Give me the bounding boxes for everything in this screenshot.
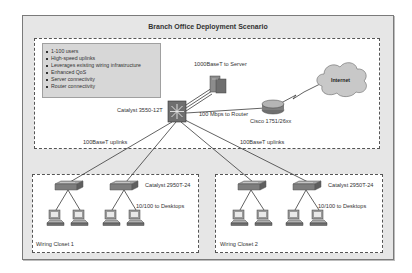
access-switch-icon [110,181,138,190]
network-drawing [0,0,412,273]
closet-2-label: Wiring Closet 2 [220,241,258,247]
desktop-pc-icon [127,210,144,226]
desktop-pc-icon [286,210,303,226]
desktop-pc-icon [103,210,120,226]
closet-1-switch-label: Catalyst 2950T-24 [145,182,190,188]
desktop-pc-icon [310,210,327,226]
router-label: Cisco 1751/26xx [250,118,291,124]
router-icon [262,100,284,114]
desktop-pc-icon [71,210,88,226]
core-switch-icon [168,101,186,122]
closet-1-desktop-link-label: 10/100 to Desktops [136,203,184,209]
access-switch-icon [293,181,321,190]
closet-2-switch-label: Catalyst 2950T-24 [328,182,373,188]
closet-1-label: Wiring Closet 1 [36,241,74,247]
access-switch-icon [238,181,266,190]
closet-2-desktop-link-label: 10/100 to Desktops [318,203,366,209]
uplinks-right-label: 100BaseT uplinks [240,139,284,145]
desktop-pc-icon [231,210,248,226]
server-icon [210,76,226,93]
desktop-pc-icon [47,210,64,226]
server-link-label: 1000BaseT to Server [194,61,247,67]
access-switch-icon [55,181,83,190]
router-link-label: 100 Mbps to Router [199,111,248,117]
core-switch-label: Catalyst 3550-12T [117,107,163,113]
internet-label: Internet [331,77,350,83]
uplinks-left-label: 100BaseT uplinks [83,139,127,145]
desktop-pc-icon [255,210,272,226]
